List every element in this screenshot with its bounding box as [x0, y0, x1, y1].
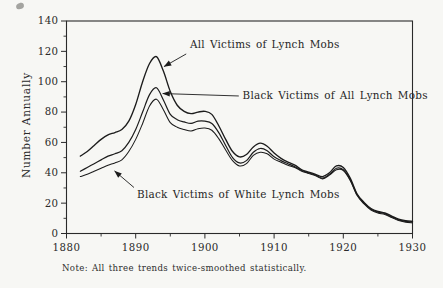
- y-tick-label: 0: [52, 228, 59, 239]
- y-tick-label: 60: [45, 137, 59, 148]
- y-tick-label: 80: [45, 106, 59, 117]
- x-tick-label: 1920: [329, 242, 357, 253]
- plot-border: [67, 21, 413, 234]
- annotation-label-1: Black Victims of All Lynch Mobs: [243, 89, 428, 101]
- x-tick-label: 1910: [260, 242, 288, 253]
- x-tick-label: 1900: [191, 242, 219, 253]
- x-tick-label: 1930: [399, 242, 427, 253]
- annotation-arrow-1: [163, 94, 239, 96]
- annotation-label-0: All Victims of Lynch Mobs: [189, 38, 340, 50]
- x-tick-label: 1880: [53, 242, 81, 253]
- y-tick-label: 140: [38, 15, 59, 26]
- figure-note: Note: All three trends twice-smoothed st…: [62, 263, 422, 273]
- annotation-label-2: Black Victims of White Lynch Mobs: [137, 188, 339, 200]
- y-tick-label: 120: [38, 46, 59, 57]
- annotation-arrow-0: [164, 54, 186, 67]
- lynching-trends-line-chart: 0204060801001201401880189019001910192019…: [0, 0, 443, 288]
- x-tick-label: 1890: [122, 242, 150, 253]
- y-tick-label: 20: [45, 198, 59, 209]
- y-tick-label: 100: [38, 76, 59, 87]
- y-tick-label: 40: [45, 167, 59, 178]
- annotation-arrow-2: [115, 171, 134, 188]
- scanned-figure-page: Number Annually 020406080100120140188018…: [0, 0, 443, 288]
